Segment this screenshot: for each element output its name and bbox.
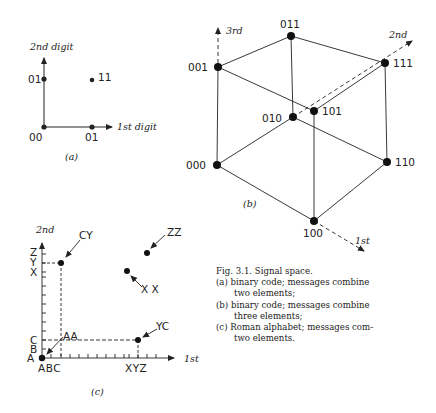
x-axis-label: 1st bbox=[184, 353, 199, 364]
panel-b-labels: 3rd 2nd 1st 011 001 111 010 101 000 110 … bbox=[186, 18, 415, 246]
caption-item-b: (b) binary code; messages combine bbox=[216, 300, 431, 311]
label-01-y: 01 bbox=[28, 73, 41, 85]
caption-text-a: binary code; messages combine bbox=[231, 277, 370, 287]
caption-item-c: (c) Roman alphabet; messages com- bbox=[216, 322, 431, 333]
label-cy: CY bbox=[79, 229, 93, 241]
panel-a-label: (a) bbox=[65, 151, 78, 162]
point-00 bbox=[41, 124, 46, 129]
vertex-011 bbox=[287, 32, 295, 40]
vertex-100 bbox=[310, 217, 318, 225]
caption-text-c: Roman alphabet; messages com- bbox=[230, 322, 373, 332]
x-ticks bbox=[51, 354, 156, 358]
caption-prefix-c: (c) bbox=[216, 322, 228, 332]
label-zz: ZZ bbox=[167, 226, 181, 238]
vertex-111 bbox=[381, 59, 389, 67]
panel-c bbox=[42, 235, 174, 358]
label-xx: X X bbox=[141, 283, 159, 295]
panel-a: 2nd digit 1st digit 01 11 00 01 (a) bbox=[28, 41, 157, 162]
label-aa: AA bbox=[63, 330, 78, 342]
label-01-x: 01 bbox=[85, 131, 98, 143]
zz-pointer bbox=[151, 235, 165, 248]
x-ticks-xyz: XYZ bbox=[125, 362, 147, 374]
x-ticks-abc: ABC bbox=[38, 362, 61, 374]
y-axis-label: 2nd bbox=[35, 224, 54, 235]
point-zz bbox=[144, 250, 150, 256]
panel-c-labels: 2nd 1st Z Y X C B A ABC XYZ CY ZZ X X YC… bbox=[27, 224, 199, 397]
vertex-110 bbox=[383, 158, 391, 166]
caption-item-a: (a) binary code; messages combine bbox=[216, 277, 431, 288]
caption-title: Fig. 3.1. Signal space. bbox=[216, 266, 431, 277]
label-100: 100 bbox=[303, 227, 323, 239]
vertex-000 bbox=[213, 161, 221, 169]
signal-space-figure: 2nd digit 1st digit 01 11 00 01 (a) bbox=[0, 0, 436, 413]
caption-text-b: binary code; messages combine bbox=[231, 300, 370, 310]
panel-b-label: (b) bbox=[243, 198, 257, 209]
label-001: 001 bbox=[188, 61, 208, 73]
point-cy bbox=[58, 260, 64, 266]
axis-2nd-label: 2nd bbox=[388, 29, 407, 40]
vertex-101 bbox=[310, 107, 318, 115]
label-111: 111 bbox=[393, 57, 413, 69]
caption-prefix-a: (a) bbox=[216, 277, 228, 287]
label-110: 110 bbox=[395, 156, 415, 168]
yc-pointer bbox=[143, 329, 157, 337]
x-axis-label: 1st digit bbox=[117, 121, 157, 132]
axis-3rd-label: 3rd bbox=[226, 25, 243, 36]
label-000: 000 bbox=[186, 159, 206, 171]
label-11: 11 bbox=[98, 71, 111, 83]
y-tick-x: X bbox=[30, 266, 37, 278]
label-011: 011 bbox=[280, 18, 300, 30]
y-tick-a: A bbox=[27, 352, 35, 364]
axis-2nd bbox=[293, 41, 412, 117]
axis-1st-label: 1st bbox=[355, 235, 370, 246]
point-aa bbox=[39, 355, 45, 361]
panel-b-vertices bbox=[213, 32, 391, 225]
caption-prefix-b: (b) bbox=[216, 300, 228, 310]
y-ticks bbox=[42, 254, 46, 349]
caption-text-c-cont: two elements. bbox=[216, 333, 431, 344]
label-00: 00 bbox=[29, 131, 42, 143]
caption-text-b-cont: three elements; bbox=[216, 311, 431, 322]
figure-caption: Fig. 3.1. Signal space. (a) binary code;… bbox=[216, 266, 431, 344]
point-01-y bbox=[41, 76, 46, 81]
vertex-010 bbox=[289, 113, 297, 121]
panel-c-label: (c) bbox=[91, 386, 104, 397]
cy-pointer bbox=[66, 240, 80, 257]
label-010: 010 bbox=[262, 112, 282, 124]
caption-text-a-cont: two elements; bbox=[216, 288, 431, 299]
point-01-x bbox=[89, 124, 94, 129]
y-axis-label: 2nd digit bbox=[29, 41, 74, 52]
point-xx bbox=[124, 268, 130, 274]
label-101: 101 bbox=[322, 105, 342, 117]
label-yc: YC bbox=[155, 320, 169, 332]
point-yc bbox=[135, 337, 141, 343]
vertex-001 bbox=[214, 63, 222, 71]
point-11 bbox=[90, 78, 95, 83]
